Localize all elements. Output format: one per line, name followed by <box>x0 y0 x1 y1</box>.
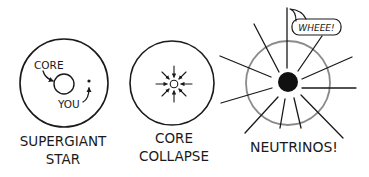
neutron-star-core-icon <box>278 72 298 92</box>
core-label: CORE <box>34 59 64 71</box>
speech-bubble: WHEEE! <box>290 9 341 35</box>
core-circle <box>54 74 74 94</box>
caption-neutrinos: NEUTRINOS! <box>250 139 338 155</box>
panel-core-collapse: CORE COLLAPSE <box>130 41 214 164</box>
inward-arrows-icon <box>156 66 192 102</box>
caption-supergiant-line1: SUPERGIANT <box>20 133 107 149</box>
supergiant-star-outline <box>20 39 108 127</box>
caption-collapse-line2: COLLAPSE <box>139 148 209 164</box>
panel-neutrinos: WHEEE! NEUTRINOS! <box>220 8 356 155</box>
panel-supergiant-star: CORE YOU SUPERGIANT STAR <box>20 39 108 167</box>
you-dot-icon <box>87 79 90 82</box>
collapsing-core-circle <box>170 80 178 88</box>
collapse-star-outline <box>130 41 214 125</box>
caption-collapse-line1: CORE <box>155 130 193 146</box>
you-arrow-icon <box>83 88 89 102</box>
you-label: YOU <box>57 98 80 110</box>
speech-bubble-text: WHEEE! <box>298 23 334 33</box>
caption-supergiant-line2: STAR <box>46 151 80 167</box>
comic-canvas: CORE YOU SUPERGIANT STAR CORE COLLAPSE <box>0 0 369 177</box>
core-arrow-icon <box>43 71 53 81</box>
